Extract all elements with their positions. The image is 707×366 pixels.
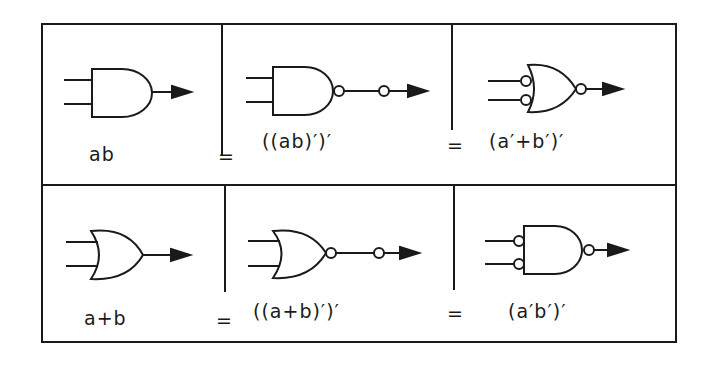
equals-sign: = — [216, 309, 232, 331]
equals-sign: = — [218, 145, 234, 167]
equals-sign: = — [447, 302, 463, 324]
expression-double-nor: ((a+b)′)′ — [253, 300, 340, 322]
and-gate-icon — [64, 69, 191, 117]
nor-double-inversion-icon — [248, 230, 419, 278]
or-inverted-inputs-icon — [488, 65, 622, 112]
nand-double-inversion-icon — [246, 67, 427, 115]
and-inverted-inputs-icon — [485, 226, 627, 274]
equals-sign: = — [447, 134, 463, 156]
expression-double-nand: ((ab)′)′ — [262, 130, 332, 152]
expression-or-inverted: (a′+b′)′ — [489, 130, 564, 152]
or-gate-icon — [66, 231, 190, 280]
expression-ab: ab — [89, 143, 115, 165]
expression-and-inverted: (a′b′)′ — [508, 300, 566, 322]
expression-a-plus-b: a+b — [84, 307, 127, 329]
